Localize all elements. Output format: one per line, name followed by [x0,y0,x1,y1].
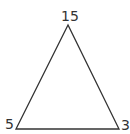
triangle-diagram: 15 5 3 [0,0,130,134]
vertex-label-bottom-right: 3 [121,118,130,132]
vertex-label-bottom-left: 5 [5,117,14,131]
vertex-label-top: 15 [61,9,79,23]
